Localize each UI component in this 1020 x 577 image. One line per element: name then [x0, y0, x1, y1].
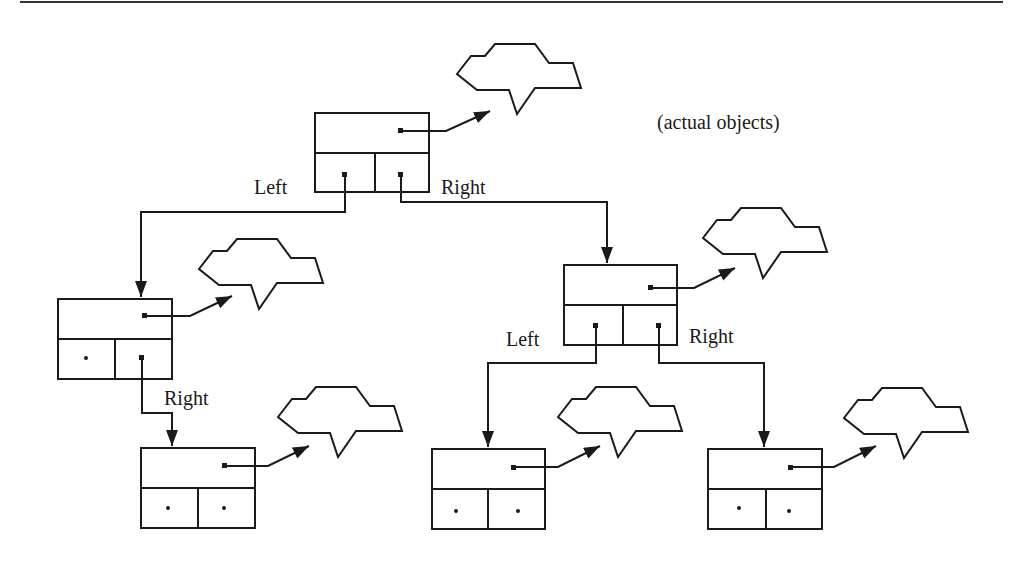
root-left-label: Left: [254, 177, 287, 197]
tree-diagram: [0, 0, 1020, 577]
right-child-object-arrow: [651, 268, 735, 288]
right-left-grandchild-node: [432, 449, 545, 529]
left-right-grandchild-node: [141, 448, 255, 528]
root-object-cloud: [457, 44, 581, 114]
right-child-right-label: Right: [689, 326, 733, 346]
left-child-object-cloud: [199, 239, 323, 309]
root-right-label: Right: [441, 177, 485, 197]
left-child-node: [58, 299, 172, 379]
right-right-grandchild-node: [708, 449, 822, 529]
left-child-right-label: Right: [164, 388, 208, 408]
right-child-object-cloud: [703, 208, 827, 278]
root-left-link: [141, 175, 345, 297]
right-right-grandchild-object-cloud: [844, 388, 968, 458]
right-left-grandchild-object-cloud: [558, 387, 682, 457]
root-right-link: [401, 175, 607, 263]
caption-actual-objects: (actual objects): [657, 112, 780, 132]
root-node: [315, 113, 429, 192]
right-child-left-label: Left: [506, 329, 539, 349]
right-child-node: [564, 265, 677, 345]
left-right-grandchild-object-cloud: [278, 387, 402, 457]
